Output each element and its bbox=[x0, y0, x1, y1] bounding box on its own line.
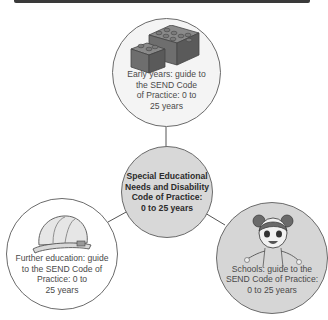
girl-cartoon-icon bbox=[243, 211, 303, 271]
label-line: the SEND Code bbox=[127, 80, 205, 91]
label-line: Code of Practice: bbox=[125, 192, 209, 203]
center-label: Special Educational Needs and Disability… bbox=[125, 171, 209, 213]
node-schools: Schools: guide to the SEND Code of Pract… bbox=[216, 202, 328, 314]
label-line: SEND Code of Practice: bbox=[226, 274, 318, 285]
node-center-code-of-practice: Special Educational Needs and Disability… bbox=[121, 146, 213, 238]
label-line: 0 to 25 years bbox=[125, 203, 209, 214]
lego-bricks-icon bbox=[129, 25, 205, 75]
connector-right bbox=[205, 213, 225, 225]
hard-hat-icon bbox=[31, 213, 93, 255]
label-line: Practice: 0 to bbox=[15, 274, 108, 285]
label-line: 25 years bbox=[127, 101, 205, 112]
node-label: Early years: guide to the SEND Code of P… bbox=[127, 69, 205, 111]
label-line: 25 years bbox=[15, 285, 108, 296]
node-early-years: Early years: guide to the SEND Code of P… bbox=[112, 18, 221, 127]
label-line: Special Educational bbox=[125, 171, 209, 182]
label-line: to the SEND Code of bbox=[15, 264, 108, 275]
label-line: Needs and Disability bbox=[125, 182, 209, 193]
node-label: Further education: guide to the SEND Cod… bbox=[15, 253, 108, 295]
label-line: 0 to 25 years bbox=[226, 285, 318, 296]
node-further-education: Further education: guide to the SEND Cod… bbox=[6, 198, 118, 310]
label-line: of Practice: 0 to bbox=[127, 90, 205, 101]
